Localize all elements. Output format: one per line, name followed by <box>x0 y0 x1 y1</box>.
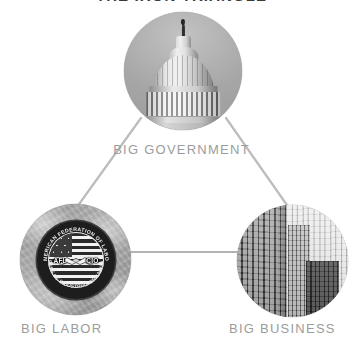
photo-shading <box>237 205 348 317</box>
capitol-dome-photo <box>124 12 242 130</box>
node-big-labor: AMERICAN FEDERATION OF LABOR CONGRESS OF… <box>20 204 131 315</box>
seal-ring-text: AMERICAN FEDERATION OF LABOR CONGRESS OF… <box>37 221 115 299</box>
node-big-government <box>124 12 242 130</box>
capitol-podium <box>137 123 229 130</box>
skyscrapers-photo <box>237 205 348 317</box>
node-big-business <box>237 205 348 317</box>
dome-colonnade <box>146 92 220 116</box>
node-label-big-business: BIG BUSINESS <box>229 321 336 336</box>
edge-government-business <box>226 118 289 208</box>
afl-cio-seal: AMERICAN FEDERATION OF LABOR CONGRESS OF… <box>37 221 115 299</box>
node-label-big-labor: BIG LABOR <box>21 321 102 336</box>
dome-group <box>133 19 232 130</box>
page-title: THE IRON TRIANGLE <box>0 0 363 4</box>
node-label-big-government: BIG GOVERNMENT <box>0 142 363 157</box>
edge-government-labor <box>77 118 141 207</box>
afl-cio-seal-photo: AMERICAN FEDERATION OF LABOR CONGRESS OF… <box>20 204 131 315</box>
svg-text:AMERICAN FEDERATION OF LABOR: AMERICAN FEDERATION OF LABOR <box>37 221 110 261</box>
statue-of-freedom-icon <box>181 24 184 37</box>
dome-entablature <box>142 117 224 123</box>
iron-triangle-diagram: THE IRON TRIANGLE BIG GO <box>0 0 363 348</box>
